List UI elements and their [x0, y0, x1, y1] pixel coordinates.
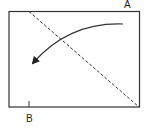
curved-arrow: [33, 24, 123, 63]
label-b: B: [26, 114, 33, 124]
frame-rectangle: [9, 12, 140, 108]
dashed-diagonal-line: [29, 12, 139, 108]
label-a: A: [124, 0, 131, 10]
diagram-canvas: [0, 0, 148, 133]
